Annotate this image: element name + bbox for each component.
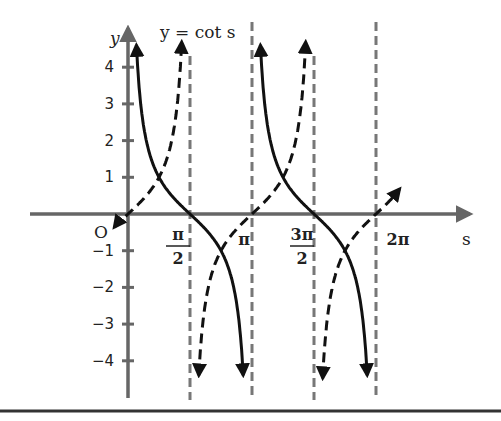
y-tick-label: 4 bbox=[104, 58, 114, 76]
y-tick-label: 1 bbox=[104, 168, 114, 186]
labels: 4321−1−2−3−4π2π3π22πOsyy = cot s bbox=[92, 22, 471, 370]
x-tick-denominator: 2 bbox=[172, 249, 183, 268]
x-axis-label: s bbox=[462, 229, 471, 249]
y-tick-label: 3 bbox=[104, 95, 114, 113]
x-tick-label: π bbox=[238, 230, 250, 249]
y-axis-label: y bbox=[109, 28, 120, 48]
chart-title: y = cot s bbox=[159, 22, 235, 42]
x-tick-numerator: 3π bbox=[291, 225, 314, 244]
axes bbox=[30, 28, 470, 398]
origin-label: O bbox=[94, 222, 108, 242]
y-tick-label: 2 bbox=[104, 132, 114, 150]
curves bbox=[114, 42, 400, 379]
y-tick-label: −2 bbox=[92, 278, 114, 296]
y-tick-label: −4 bbox=[92, 352, 114, 370]
y-tick-label: −3 bbox=[92, 315, 114, 333]
x-tick-denominator: 2 bbox=[296, 249, 307, 268]
chart: 4321−1−2−3−4π2π3π22πOsyy = cot s bbox=[0, 0, 501, 421]
x-tick-label: 2π bbox=[387, 230, 410, 249]
y-tick-label: −1 bbox=[92, 242, 114, 260]
asymptotes bbox=[190, 22, 376, 400]
tan-branch bbox=[114, 42, 182, 228]
x-tick-numerator: π bbox=[172, 225, 184, 244]
tan-branch bbox=[323, 189, 400, 378]
